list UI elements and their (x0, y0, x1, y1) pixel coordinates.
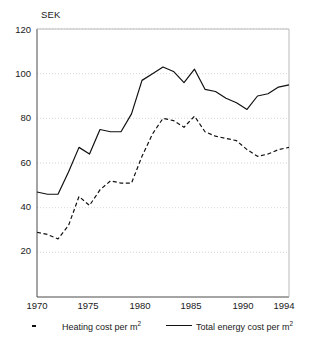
y-tick-label-120: 120 (3, 24, 31, 35)
x-tick-label-1990: 1990 (223, 300, 263, 311)
series-line-heating-cost (37, 116, 289, 239)
legend-label-total: Total energy cost per m2 (196, 320, 293, 332)
chart-figure: SEK 120 100 80 60 40 20 1970 1975 1980 1… (0, 0, 313, 340)
legend-dashed-line-icon (32, 325, 58, 326)
y-tick-label-100: 100 (3, 68, 31, 79)
legend-item-heating-cost: Heating cost per m2 (32, 320, 141, 332)
legend-solid-line-icon (166, 325, 192, 327)
legend-label-heating: Heating cost per m2 (62, 320, 141, 332)
y-tick-label-40: 40 (3, 201, 31, 212)
plot-area (0, 0, 313, 340)
data-series-layer (37, 67, 289, 239)
y-axis-unit-label: SEK (41, 9, 61, 20)
gridlines (37, 29, 289, 252)
y-tick-label-60: 60 (3, 157, 31, 168)
x-tick-label-1975: 1975 (68, 300, 108, 311)
series-line-total-energy-cost (37, 67, 289, 194)
x-tick-label-1985: 1985 (171, 300, 211, 311)
x-tick-label-1994: 1994 (264, 300, 304, 311)
x-tick-label-1970: 1970 (17, 300, 57, 311)
y-tick-label-80: 80 (3, 112, 31, 123)
legend-item-total-energy-cost: Total energy cost per m2 (166, 320, 293, 332)
y-tick-label-20: 20 (3, 245, 31, 256)
x-tick-label-1980: 1980 (120, 300, 160, 311)
